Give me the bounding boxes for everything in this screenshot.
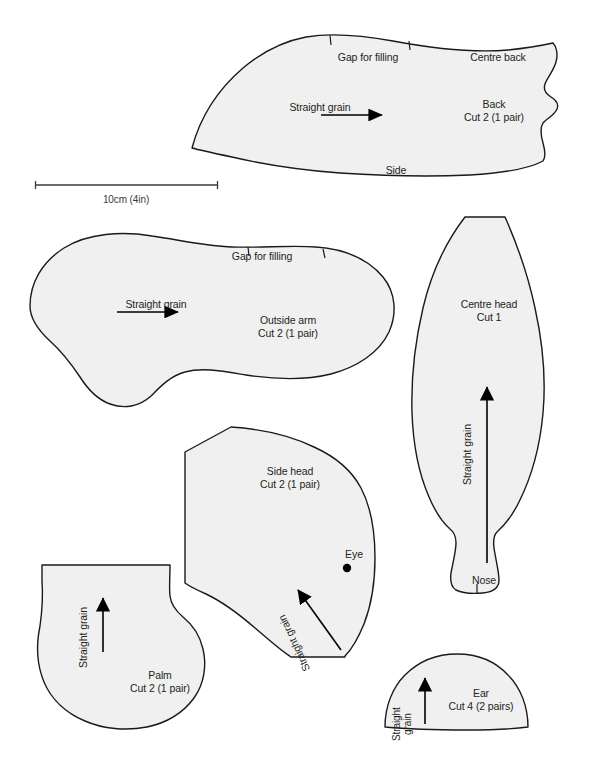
outside-arm-gap-for-filling-label: Gap for filling: [232, 250, 292, 263]
centre-head-grain-label: Straight grain: [461, 424, 474, 485]
side-head-piece-cut: Cut 2 (1 pair): [260, 478, 320, 491]
outside-arm-grain-label: Straight grain: [125, 298, 186, 311]
back-piece-cut: Cut 2 (1 pair): [464, 111, 524, 124]
palm-outline[interactable]: [38, 565, 205, 729]
centre-head-piece-name: Centre head: [461, 298, 518, 311]
centre-head-piece-cut: Cut 1: [477, 311, 502, 324]
ear-grain-label-line2: grain: [401, 713, 414, 735]
back-piece-name: Back: [483, 98, 506, 111]
piece-palm[interactable]: [38, 565, 205, 729]
back-centre-back-label: Centre back: [470, 51, 526, 64]
palm-grain-label: Straight grain: [77, 607, 90, 668]
back-gap-for-filling-label: Gap for filling: [338, 51, 398, 64]
palm-piece-cut: Cut 2 (1 pair): [130, 682, 190, 695]
centre-head-outline[interactable]: [412, 217, 544, 593]
outside-arm-piece-cut: Cut 2 (1 pair): [258, 327, 318, 340]
back-side-label: Side: [386, 164, 407, 177]
ear-piece-cut: Cut 4 (2 pairs): [448, 700, 513, 713]
scale-bar: [35, 181, 218, 189]
pattern-sheet: Gap for filling Centre back Side Straigh…: [0, 0, 597, 762]
outside-arm-outline[interactable]: [30, 234, 394, 407]
side-head-piece-name: Side head: [267, 465, 313, 478]
ear-piece-name: Ear: [473, 687, 489, 700]
outside-arm-piece-name: Outside arm: [260, 314, 316, 327]
side-head-eye-dot: [343, 564, 351, 572]
back-grain-label: Straight grain: [289, 101, 350, 114]
side-head-eye-label: Eye: [345, 548, 363, 561]
scale-bar-label: 10cm (4in): [103, 193, 149, 206]
palm-piece-name: Palm: [148, 669, 172, 682]
piece-outside-arm[interactable]: [30, 234, 394, 407]
piece-centre-head[interactable]: [412, 217, 544, 593]
centre-head-nose-label: Nose: [472, 574, 496, 587]
